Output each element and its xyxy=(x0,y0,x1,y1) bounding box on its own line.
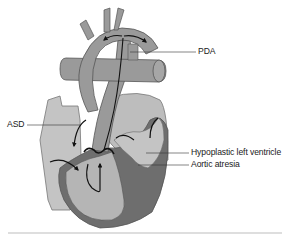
arch-vessel-3 xyxy=(114,8,124,30)
label-pda: PDA xyxy=(198,46,215,56)
arch-vessel-2 xyxy=(104,8,110,32)
label-asd: ASD xyxy=(7,119,24,129)
label-aortic-atresia: Aortic atresia xyxy=(191,159,240,169)
arch-vessel-1 xyxy=(80,20,94,40)
label-hypoplastic-left-ventricle: Hypoplastic left ventricle xyxy=(191,147,281,157)
heart-diagram xyxy=(0,0,282,238)
pa-branch-end xyxy=(153,60,165,82)
branch-pulmonary-arteries xyxy=(60,58,166,82)
